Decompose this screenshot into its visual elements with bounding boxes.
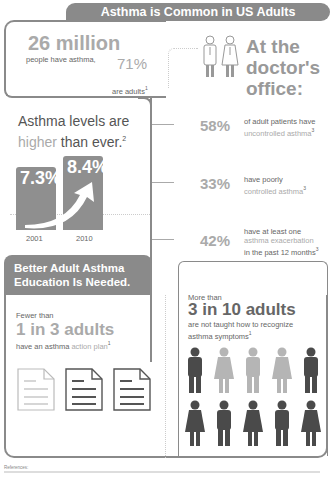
document-icon-light (18, 369, 54, 410)
total-caption: people have asthma, (26, 55, 96, 64)
person-icon (214, 348, 234, 394)
person-icon (217, 401, 231, 447)
adults-caption: are adults1 (112, 85, 148, 96)
stat-42-pct: 42% (200, 232, 230, 249)
person-icon (304, 348, 318, 394)
section-banner: Asthma is Common in US Adults (66, 3, 330, 21)
people-figures (180, 345, 328, 450)
education-divider (165, 295, 166, 458)
doctor-title: At the doctor's office: (246, 36, 320, 99)
connector-line (152, 182, 174, 183)
connector-line (152, 239, 174, 240)
person-icon (185, 401, 205, 447)
stat-33-text: have poorly controlled asthma3 (244, 175, 306, 196)
symptoms-stat: 3 in 10 adults (188, 300, 296, 320)
action-plan-stat: 1 in 3 adults (16, 320, 114, 340)
references-label: References: (4, 465, 28, 470)
document-icons (16, 367, 156, 412)
person-icon (246, 348, 260, 394)
stat-58-pct: 58% (200, 117, 230, 134)
action-plan-prefix: Fewer than (16, 311, 54, 320)
action-plan-caption: have an asthma action plan1 (16, 340, 111, 351)
person-icon (301, 401, 321, 447)
year-2010: 2010 (76, 234, 93, 243)
education-banner: Better Adult Asthma Education Is Needed. (4, 255, 152, 295)
person-icon (243, 401, 263, 447)
document-icon-dark (66, 369, 102, 410)
person-icon (188, 348, 202, 394)
bar-2010-label: 8.4% (67, 157, 108, 178)
total-stat: 26 million (28, 32, 120, 55)
document-icon-dark (114, 369, 150, 410)
increase-arrow-icon (20, 180, 100, 230)
levels-heading: Asthma levels are higher than ever.2 (18, 113, 129, 151)
symptoms-caption: are not taught how to recognize asthma s… (188, 320, 293, 341)
connector-line (152, 124, 174, 125)
person-icon (272, 348, 292, 394)
person-icon (275, 401, 289, 447)
year-2001: 2001 (26, 234, 43, 243)
stat-58-text: of adult patients have uncontrolled asth… (244, 117, 315, 138)
references-text (4, 471, 320, 473)
doctor-dotted-frame (168, 48, 198, 88)
adults-pct: 71% (117, 55, 147, 72)
stat-42-text: have at least one asthma exacerbation in… (244, 227, 319, 257)
stat-33-pct: 33% (200, 175, 230, 192)
doctors-icon (200, 35, 242, 79)
